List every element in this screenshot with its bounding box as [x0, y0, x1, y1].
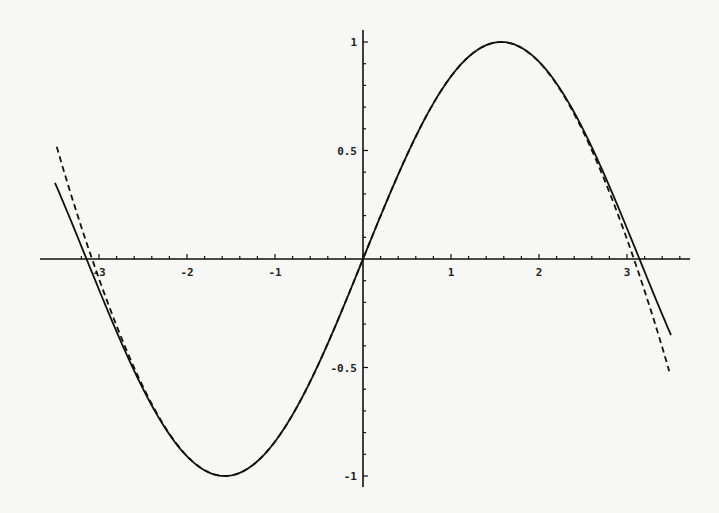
- x-tick-label: -2: [180, 266, 193, 279]
- x-tick-label: -1: [268, 266, 282, 279]
- x-tick-label: 1: [448, 266, 455, 279]
- y-tick-label: 1: [350, 36, 357, 49]
- y-tick-label: 0.5: [337, 145, 357, 158]
- chart-plot: -3-2-112310.5-0.5-1: [0, 0, 719, 513]
- x-tick-label: 3: [624, 266, 631, 279]
- x-tick-label: 2: [536, 266, 543, 279]
- y-tick-label: -0.5: [331, 362, 358, 375]
- y-tick-label: -1: [344, 470, 358, 483]
- axes: [40, 30, 690, 487]
